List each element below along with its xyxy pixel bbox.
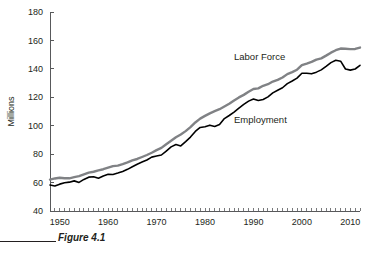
chart-svg: 4060801001201401601801950196019701980199… — [0, 0, 368, 257]
labor-force-employment-chart: 4060801001201401601801950196019701980199… — [0, 0, 368, 257]
series-line-labor-force — [50, 48, 360, 180]
y-tick-label: 100 — [28, 121, 43, 131]
y-tick-label: 160 — [28, 36, 43, 46]
x-tick-label: 1960 — [98, 217, 118, 227]
y-axis-title: Millions — [6, 96, 16, 127]
y-tick-label: 180 — [28, 7, 43, 17]
x-tick-label: 1990 — [243, 217, 263, 227]
x-tick-label: 2010 — [340, 217, 360, 227]
y-tick-label: 120 — [28, 92, 43, 102]
figure-page: 4060801001201401601801950196019701980199… — [0, 0, 368, 257]
series-label-labor-force: Labor Force — [234, 51, 285, 62]
series-line-employment — [50, 60, 360, 186]
x-tick-label: 1980 — [195, 217, 215, 227]
x-tick-label: 1970 — [147, 217, 167, 227]
x-tick-label: 1950 — [50, 217, 70, 227]
y-tick-label: 40 — [33, 206, 43, 216]
chart-series — [50, 48, 360, 186]
y-tick-label: 80 — [33, 149, 43, 159]
y-tick-label: 140 — [28, 64, 43, 74]
figure-caption: Figure 4.1 — [58, 232, 105, 243]
chart-axes: 4060801001201401601801950196019701980199… — [28, 7, 360, 227]
figure-caption-block: Figure 4.1 — [0, 231, 368, 253]
series-label-employment: Employment — [234, 114, 287, 125]
caption-rule — [0, 241, 56, 242]
x-tick-label: 2000 — [292, 217, 312, 227]
y-tick-label: 60 — [33, 178, 43, 188]
chart-labels: MillionsLabor ForceEmployment — [6, 51, 287, 127]
